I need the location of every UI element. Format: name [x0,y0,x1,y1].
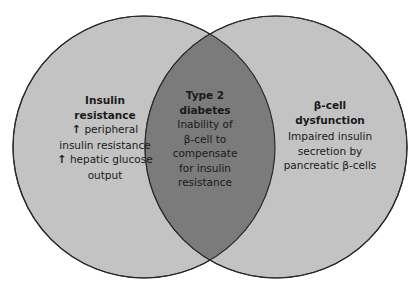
up-arrow-icon: ↑ [57,153,66,166]
overlap-title-line-1: Type 2 [150,88,260,103]
overlap-body-line-4: for insulin [150,161,260,176]
right-body-line-2: secretion by [270,144,390,159]
right-body-line-1: Impaired insulin [270,129,390,144]
overlap-body-line-5: resistance [150,175,260,190]
right-body-line-3: pancreatic β-cells [270,158,390,173]
overlap-title-line-2: diabetes [150,103,260,118]
right-title-line-1: β-cell [270,98,390,113]
overlap-body-line-3: compensate [150,146,260,161]
overlap-body-line-1: Inability of [150,117,260,132]
overlap-body-line-2: β-cell to [150,132,260,147]
overlap-label: Type 2 diabetes Inability of β-cell to c… [150,88,260,190]
up-arrow-icon: ↑ [72,123,81,136]
right-title-line-2: dysfunction [270,113,390,128]
right-circle-label: β-cell dysfunction Impaired insulin secr… [270,98,390,173]
